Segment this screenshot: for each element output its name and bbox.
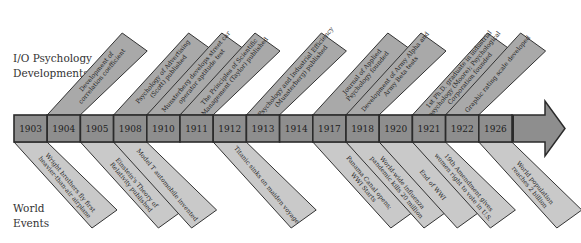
year-cell: 1914: [280, 115, 313, 142]
timeline-arrow: [511, 101, 565, 156]
year-cell: 1917: [313, 115, 346, 142]
year-label: 1922: [451, 124, 474, 134]
year-label: 1913: [252, 124, 275, 134]
year-label: 1903: [19, 124, 42, 134]
year-label: 1920: [384, 124, 407, 134]
year-cell: 1921: [412, 115, 445, 142]
year-cell: 1903: [14, 115, 47, 142]
year-cell: 1912: [213, 115, 246, 142]
year-cell: 1904: [47, 115, 80, 142]
year-cell: 1920: [379, 115, 412, 142]
world-event-banner: Titanic sinks on maiden voyage: [213, 142, 316, 228]
year-label: 1918: [351, 124, 374, 134]
year-cell: 1911: [180, 115, 213, 142]
year-label: 1917: [318, 124, 341, 134]
timeline-graphic: Development ofcorrelation coefficientPsy…: [0, 0, 581, 243]
year-cell: 1926: [479, 115, 512, 142]
year-cell: 1922: [446, 115, 479, 142]
year-label: 1904: [52, 124, 75, 134]
year-label: 1911: [185, 124, 208, 134]
year-label: 1908: [119, 124, 142, 134]
year-label: 1926: [484, 124, 507, 134]
timeline-diagram: I/O Psychology Developments World Events…: [0, 0, 581, 243]
year-cell: 1918: [346, 115, 379, 142]
year-label: 1921: [418, 124, 441, 134]
year-label: 1914: [285, 124, 308, 134]
year-label: 1905: [86, 124, 109, 134]
year-label: 1910: [152, 124, 175, 134]
year-cell: 1910: [147, 115, 180, 142]
year-label: 1912: [218, 124, 241, 134]
year-cell: 1905: [80, 115, 113, 142]
year-cell: 1908: [114, 115, 147, 142]
year-cell: 1913: [246, 115, 279, 142]
